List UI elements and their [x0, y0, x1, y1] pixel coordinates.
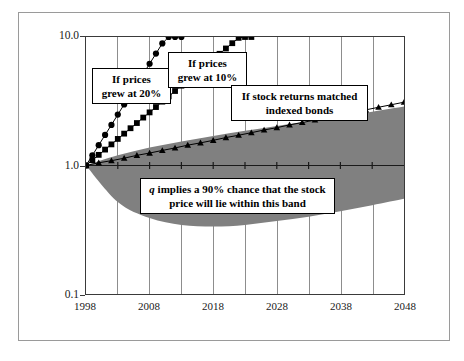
annotation-prices-20-line2: grew at 20%	[98, 86, 165, 100]
annotation-prices-10: If prices grew at 10%	[168, 52, 247, 88]
y-tick-label-10: 10.0	[33, 29, 79, 41]
x-tick-label-2018: 2018	[183, 300, 243, 312]
y-tick-mark-0-1	[80, 295, 85, 296]
x-tick-label-1998: 1998	[55, 300, 115, 312]
annotation-band-note: q implies a 90% chance that the stock pr…	[140, 178, 335, 214]
annotation-band-note-line1-text: implies a 90% chance that the stock	[155, 183, 326, 195]
annotation-band-note-line1: q implies a 90% chance that the stock	[146, 182, 329, 196]
annotation-prices-20-line1: If prices	[98, 72, 165, 86]
annotation-band-note-line2: price will lie within this band	[146, 196, 329, 210]
chart-figure: Ratios to end-1998 Values 10.0 1.0 0.1 1…	[0, 0, 464, 361]
y-tick-label-1: 1.0	[33, 159, 79, 171]
x-tick-label-2038: 2038	[311, 300, 371, 312]
annotation-indexed-bonds-line2: indexed bonds	[237, 103, 362, 117]
annotation-indexed-bonds: If stock returns matched indexed bonds	[231, 85, 368, 121]
annotation-prices-20: If prices grew at 20%	[92, 68, 171, 104]
x-tick-label-2008: 2008	[119, 300, 179, 312]
x-tick-label-2048: 2048	[375, 300, 435, 312]
annotation-indexed-bonds-line1: If stock returns matched	[237, 89, 362, 103]
annotation-prices-10-line1: If prices	[174, 56, 241, 70]
y-tick-label-0-1: 0.1	[33, 288, 79, 300]
x-tick-label-2028: 2028	[247, 300, 307, 312]
annotation-prices-10-line2: grew at 10%	[174, 70, 241, 84]
